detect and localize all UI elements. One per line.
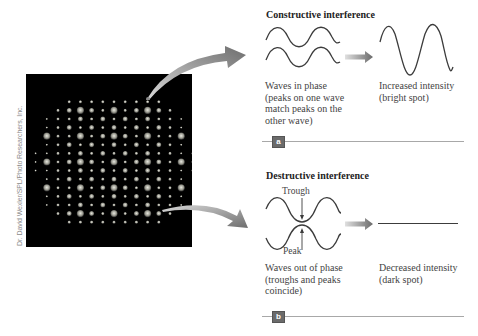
out-of-phase-waves-icon xyxy=(264,196,344,258)
constructive-heading: Constructive interference xyxy=(266,9,375,20)
increased-intensity-caption: Increased intensity (bright spot) xyxy=(379,80,478,103)
trough-label: Trough xyxy=(282,186,310,196)
divider-a xyxy=(262,141,464,142)
destructive-heading: Destructive interference xyxy=(266,170,369,181)
peak-label: Peak xyxy=(283,246,301,256)
caption-line: Waves in phase xyxy=(265,80,375,92)
increased-wave-icon xyxy=(378,22,458,78)
caption-line: other wave) xyxy=(265,115,375,127)
caption-line: (peaks on one wave xyxy=(265,92,375,104)
caption-line: (troughs and peaks xyxy=(265,274,375,286)
decreased-intensity-caption: Decreased intensity (dark spot) xyxy=(379,262,478,285)
arrow-to-constructive-icon xyxy=(140,20,260,100)
caption-line: (dark spot) xyxy=(379,274,478,286)
in-phase-waves-icon xyxy=(264,25,344,75)
right-arrow-icon xyxy=(345,217,375,231)
caption-line: Increased intensity xyxy=(379,80,478,92)
arrow-to-destructive-icon xyxy=(160,196,260,236)
flat-line-icon xyxy=(378,223,458,224)
photo-credit: Dr. David Wexler/SPL/Photo Researchers, … xyxy=(16,106,23,246)
caption-line: coincide) xyxy=(265,285,375,297)
panel-label-a: a xyxy=(272,136,285,148)
right-arrow-icon xyxy=(345,50,375,64)
out-of-phase-caption: Waves out of phase (troughs and peaks co… xyxy=(265,262,375,297)
divider-b xyxy=(262,316,464,317)
panel-label-b: b xyxy=(272,311,285,323)
caption-line: match peaks on the xyxy=(265,103,375,115)
caption-line: Waves out of phase xyxy=(265,262,375,274)
in-phase-caption: Waves in phase (peaks on one wave match … xyxy=(265,80,375,126)
caption-line: Decreased intensity xyxy=(379,262,478,274)
caption-line: (bright spot) xyxy=(379,92,478,104)
